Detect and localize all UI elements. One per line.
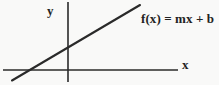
linear-function-figure: y x f(x) = mx + b [0, 0, 219, 85]
function-equation-label: f(x) = mx + b [141, 12, 214, 25]
function-line [12, 5, 140, 81]
x-axis-label: x [182, 58, 189, 71]
y-axis-label: y [47, 4, 54, 17]
